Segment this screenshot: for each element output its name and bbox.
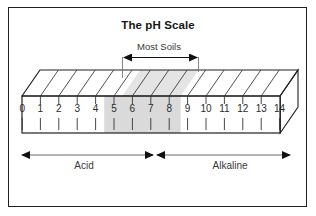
scale-tick-9: 9 xyxy=(180,103,196,114)
scale-tick-11: 11 xyxy=(216,103,232,114)
scale-tick-12: 12 xyxy=(235,103,251,114)
scale-tick-5: 5 xyxy=(106,103,122,114)
scale-tick-6: 6 xyxy=(124,103,140,114)
band-shade-top xyxy=(122,70,198,96)
scale-tick-4: 4 xyxy=(88,103,104,114)
scale-tick-14: 14 xyxy=(272,103,288,114)
scale-tick-8: 8 xyxy=(161,103,177,114)
scale-tick-7: 7 xyxy=(143,103,159,114)
block-right-face xyxy=(280,70,298,133)
alkaline-label: Alkaline xyxy=(190,160,270,171)
scale-tick-10: 10 xyxy=(198,103,214,114)
scale-tick-1: 1 xyxy=(32,103,48,114)
ph-scale-diagram: The pH Scale Most Soils xyxy=(0,0,316,216)
scale-tick-2: 2 xyxy=(51,103,67,114)
scale-tick-13: 13 xyxy=(253,103,269,114)
scale-tick-0: 0 xyxy=(14,103,30,114)
front-ticks-lower xyxy=(22,118,279,130)
acid-label: Acid xyxy=(44,160,124,171)
scale-tick-3: 3 xyxy=(69,103,85,114)
